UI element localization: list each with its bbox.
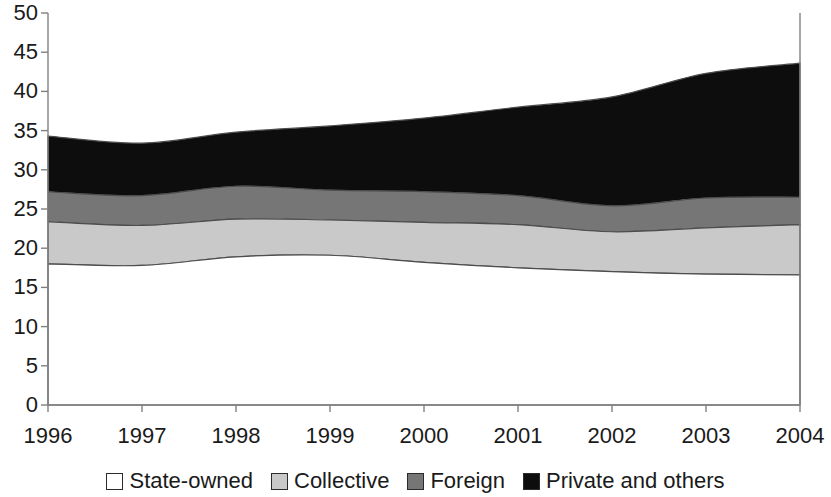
- legend-label: Foreign: [430, 469, 505, 493]
- legend-label: State-owned: [129, 469, 253, 493]
- area-series-group: [48, 63, 800, 405]
- legend-entry: Collective: [271, 469, 389, 493]
- legend-swatch-icon: [106, 473, 123, 490]
- x-tick-label: 2000: [400, 424, 449, 448]
- legend-swatch-icon: [523, 473, 540, 490]
- chart-legend: State-ownedCollectiveForeignPrivate and …: [0, 466, 831, 496]
- x-tick-label: 1997: [118, 424, 167, 448]
- x-tick-label: 2001: [494, 424, 543, 448]
- area-series-private-and-others: [48, 63, 800, 206]
- x-axis-tick-labels: 199619971998199920002001200220032004: [0, 424, 831, 454]
- area-series-state-owned: [48, 255, 800, 405]
- legend-label: Collective: [294, 469, 389, 493]
- x-tick-label: 1996: [24, 424, 73, 448]
- legend-entry: Private and others: [523, 469, 725, 493]
- stacked-area-chart: 05101520253035404550 1996199719981999200…: [0, 0, 831, 497]
- legend-entry: State-owned: [106, 469, 253, 493]
- legend-label: Private and others: [546, 469, 725, 493]
- x-tick-label: 2004: [776, 424, 825, 448]
- x-tick-label: 1998: [212, 424, 261, 448]
- x-tick-label: 2002: [588, 424, 637, 448]
- legend-swatch-icon: [271, 473, 288, 490]
- x-tick-label: 2003: [682, 424, 731, 448]
- legend-swatch-icon: [407, 473, 424, 490]
- legend-entry: Foreign: [407, 469, 505, 493]
- x-tick-label: 1999: [306, 424, 355, 448]
